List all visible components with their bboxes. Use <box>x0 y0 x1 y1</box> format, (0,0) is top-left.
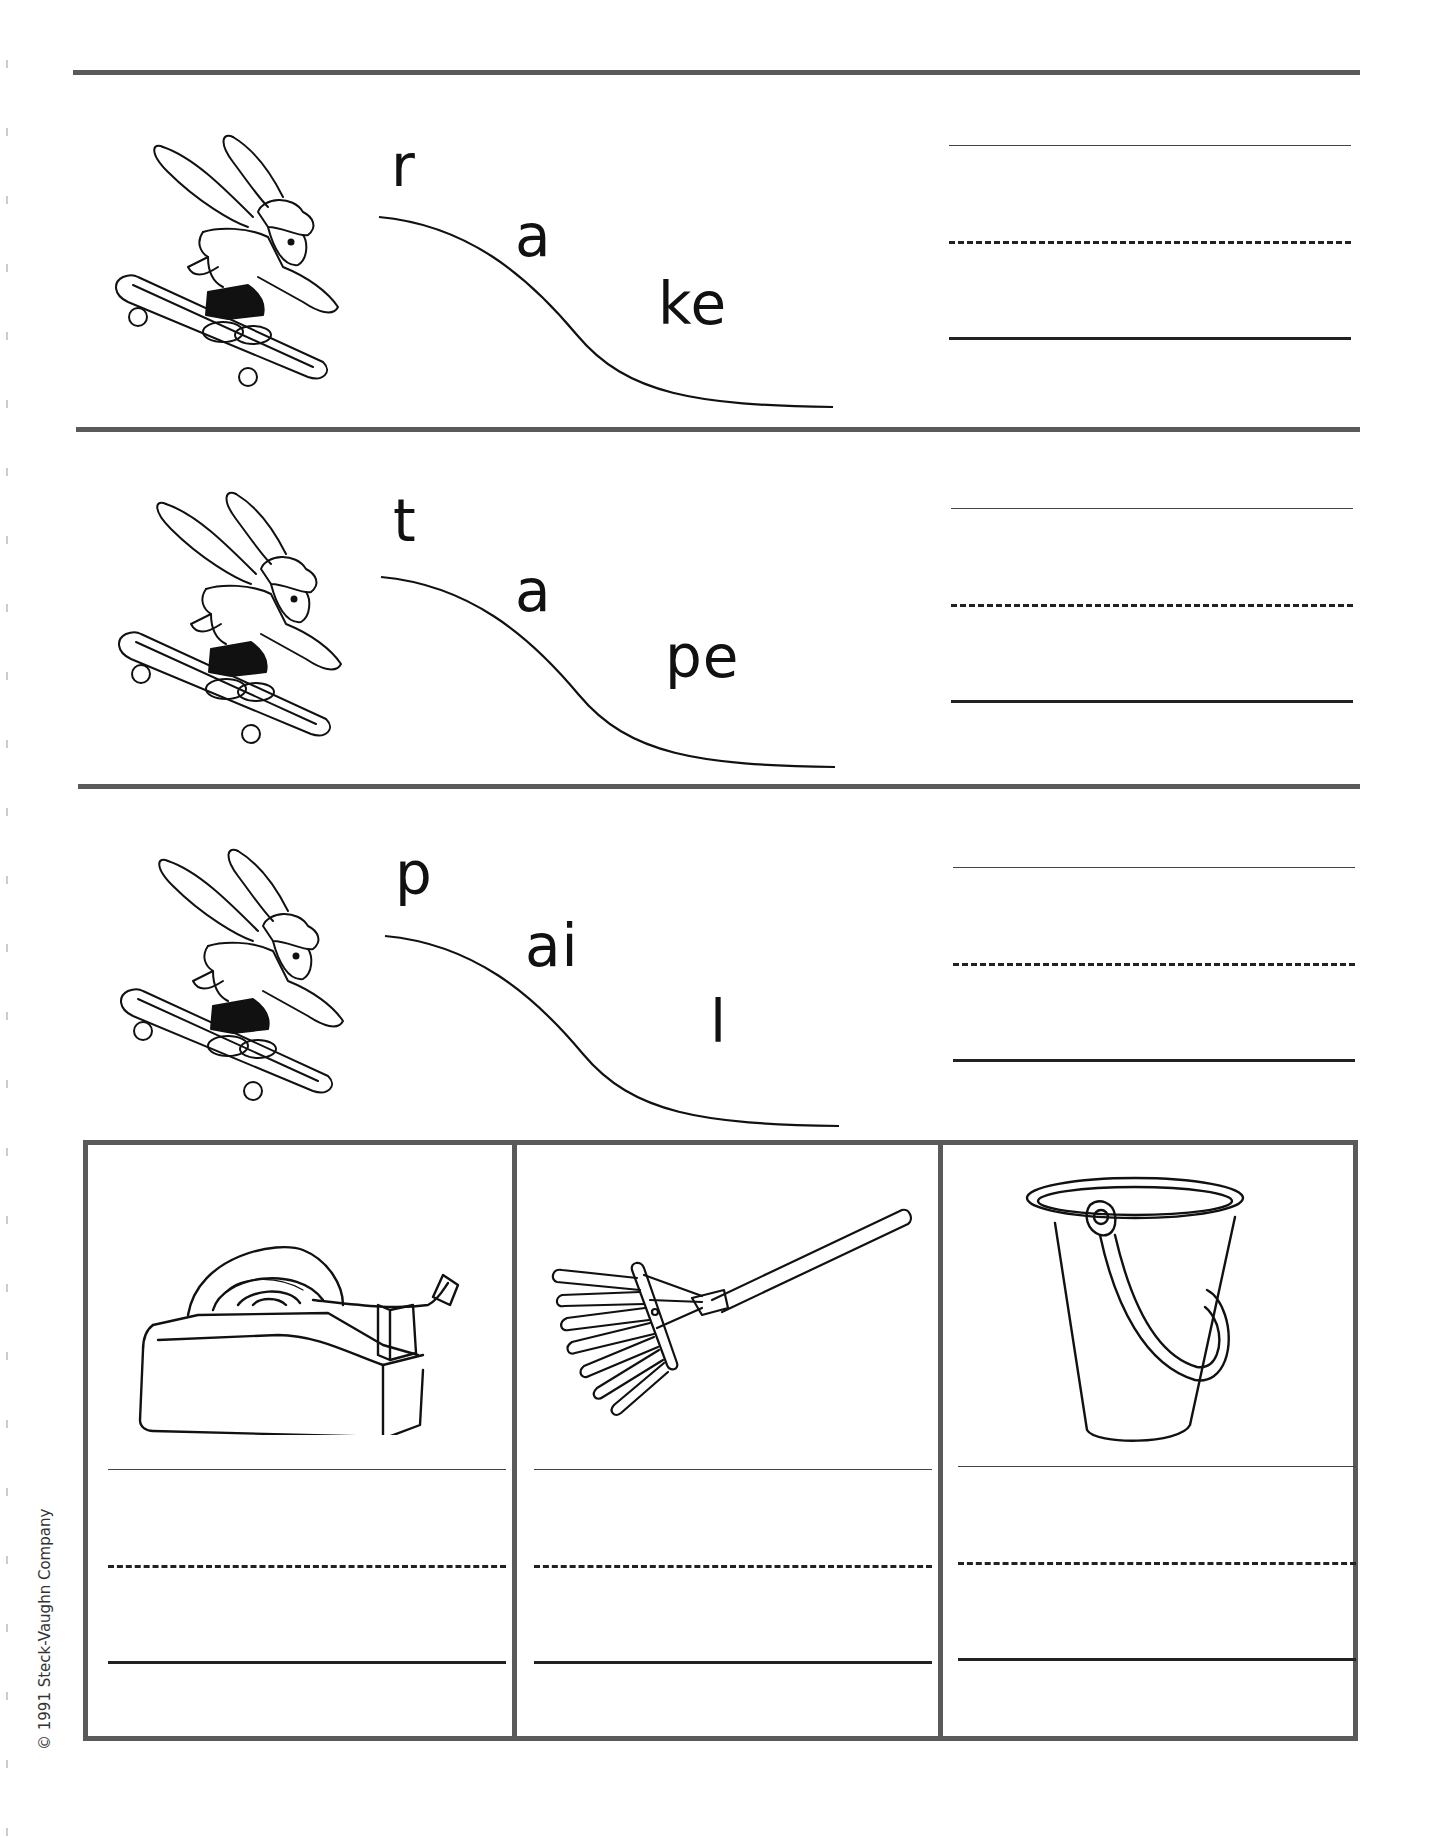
writing-line-midline <box>951 604 1353 607</box>
writing-line-top <box>108 1469 506 1470</box>
word-part-3: l <box>710 993 727 1051</box>
writing-line-baseline <box>534 1661 932 1664</box>
writing-line-top <box>958 1466 1356 1467</box>
writing-line-top <box>949 145 1351 146</box>
picture-grid <box>83 1140 1358 1741</box>
page-edge-marks <box>6 0 8 1838</box>
writing-line-baseline <box>108 1661 506 1664</box>
writing-lines[interactable] <box>108 1469 506 1669</box>
writing-line-top <box>951 508 1353 509</box>
word-part-1: r <box>391 137 416 195</box>
word-row-2: t a pe <box>73 432 1358 789</box>
bunny-skateboard-image <box>108 127 348 387</box>
writing-lines[interactable] <box>953 867 1355 1067</box>
word-part-3: pe <box>665 628 740 686</box>
writing-lines[interactable] <box>958 1466 1356 1666</box>
writing-line-baseline <box>949 337 1351 340</box>
writing-lines[interactable] <box>949 145 1351 345</box>
writing-lines[interactable] <box>951 508 1353 708</box>
slope-curve <box>379 555 839 775</box>
writing-line-top <box>953 867 1355 868</box>
writing-line-baseline <box>953 1059 1355 1062</box>
writing-line-midline <box>534 1565 932 1568</box>
writing-line-midline <box>953 963 1355 966</box>
pail-image <box>1025 1175 1275 1455</box>
picture-box-rake <box>517 1145 938 1736</box>
bunny-skateboard-image <box>113 841 353 1101</box>
word-part-2: ai <box>525 917 579 975</box>
writing-line-midline <box>949 241 1351 244</box>
picture-box-tape-dispenser <box>88 1145 512 1736</box>
word-part-1: t <box>393 492 417 550</box>
writing-lines[interactable] <box>534 1469 932 1669</box>
writing-line-baseline <box>958 1658 1356 1661</box>
writing-line-midline <box>958 1562 1356 1565</box>
word-row-1: r a ke <box>73 75 1358 432</box>
writing-line-midline <box>108 1565 506 1568</box>
word-part-2: a <box>515 207 552 265</box>
writing-line-baseline <box>951 700 1353 703</box>
rake-image <box>542 1200 922 1430</box>
slope-curve <box>383 914 843 1134</box>
copyright-notice: © 1991 Steck-Vaughn Company <box>36 1509 54 1750</box>
tape-dispenser-image <box>128 1205 468 1435</box>
word-part-1: p <box>395 845 433 903</box>
writing-line-top <box>534 1469 932 1470</box>
picture-box-pail <box>943 1145 1358 1736</box>
slope-curve <box>377 195 837 415</box>
word-part-3: ke <box>658 275 727 333</box>
word-part-2: a <box>515 562 552 620</box>
word-row-3: p ai l <box>73 789 1358 1146</box>
bunny-skateboard-image <box>111 484 351 744</box>
